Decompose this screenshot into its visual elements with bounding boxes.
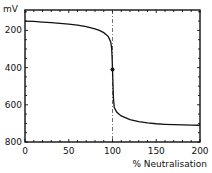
x-tick-label: 0 (22, 146, 28, 156)
x-tick-label: 150 (148, 146, 165, 156)
y-tick-label: 600 (5, 100, 22, 110)
x-axis-title: % Neutralisation (132, 159, 207, 169)
equivalence-point-marker (111, 67, 115, 71)
x-tick-label: 200 (191, 146, 208, 156)
titration-chart: 200400600800 050100150200 mV % Neutralis… (0, 0, 212, 173)
y-axis-title: mV (3, 4, 19, 14)
x-tick-label: 50 (63, 146, 75, 156)
x-tick-labels: 050100150200 (22, 146, 209, 156)
x-tick-label: 100 (104, 146, 121, 156)
y-tick-label: 800 (5, 137, 22, 147)
y-tick-labels: 200400600800 (5, 25, 22, 147)
y-tick-label: 400 (5, 63, 22, 73)
y-tick-label: 200 (5, 25, 22, 35)
